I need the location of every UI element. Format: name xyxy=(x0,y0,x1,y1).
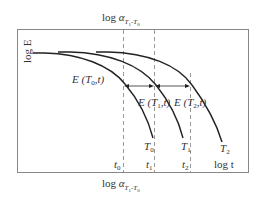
tick-label-t1: t1 xyxy=(146,158,153,172)
annotation-e-t1: E (T1,t) xyxy=(137,96,171,110)
annotation-e-t0: E (T0,t) xyxy=(71,73,105,87)
plot-frame xyxy=(18,30,249,173)
curve-label-t0: T0 xyxy=(144,140,154,154)
curve-label-t1: T1 xyxy=(181,140,191,154)
top-shift-factor-label: log αT1-T0 xyxy=(102,11,140,27)
annotation-e-t2: E (T2,t) xyxy=(173,96,207,110)
bottom-shift-factor-label: log αT1-T0 xyxy=(102,177,140,193)
x-axis-label: log t xyxy=(214,158,234,170)
curve-t1 xyxy=(58,52,183,138)
curve-label-t2: T2 xyxy=(220,142,230,156)
y-axis-label: log E xyxy=(21,39,33,63)
arrow-head-right-2 xyxy=(185,84,190,88)
tick-label-t2: t2 xyxy=(182,158,189,172)
arrow-head-right-1 xyxy=(149,84,154,88)
shift-factor-diagram: log αT1-T0 log E E (T0,t) E (T1,t) E (T2… xyxy=(0,0,257,198)
tick-label-t0: t0 xyxy=(114,158,121,172)
curve-t0 xyxy=(33,53,153,138)
